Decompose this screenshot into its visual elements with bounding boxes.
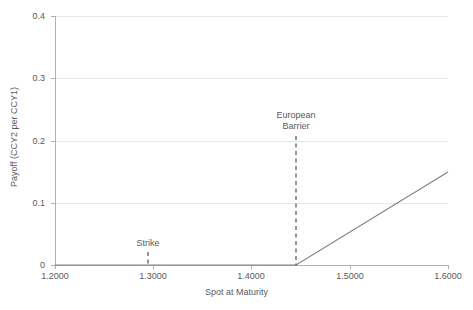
x-tick-label-1.5000: 1.5000 (320, 271, 380, 282)
y-axis-line (55, 16, 56, 266)
strike-annotation-line1: Strike (118, 238, 178, 249)
european-barrier-annotation-line2: Barrier (246, 121, 346, 132)
gridline-0.4 (55, 16, 448, 17)
x-axis-title: Spot at Maturity (0, 287, 473, 297)
x-tick-mark-1.6000 (448, 265, 449, 269)
y-tick-mark-0.3 (51, 78, 55, 79)
x-tick-label-1.6000: 1.6000 (418, 271, 473, 282)
x-tick-label-1.4000: 1.4000 (221, 271, 281, 282)
european-barrier-annotation-line1: European (246, 110, 346, 121)
y-axis-title: Payoff (CCY2 per CCY1) (9, 57, 19, 217)
gridline-0.2 (55, 141, 448, 142)
y-tick-label-0.2: 0.2 (32, 136, 45, 146)
strike-annotation: Strike (118, 238, 178, 249)
y-tick-label-0.1: 0.1 (32, 198, 45, 208)
x-tick-mark-1.4000 (251, 265, 252, 269)
x-tick-mark-1.2000 (55, 265, 56, 269)
x-tick-mark-1.5000 (350, 265, 351, 269)
gridline-0.1 (55, 203, 448, 204)
x-tick-label-1.2000: 1.2000 (25, 271, 85, 282)
x-axis-line (55, 265, 449, 266)
plot-area (55, 16, 448, 265)
payoff-chart: 0.4 0.3 0.2 0.1 0 1.2000 1.3000 1.4000 1… (0, 0, 473, 310)
y-tick-label-0.3: 0.3 (32, 73, 45, 83)
gridline-0.3 (55, 78, 448, 79)
y-tick-mark-0.4 (51, 16, 55, 17)
european-barrier-annotation: European Barrier (246, 110, 346, 132)
x-tick-mark-1.3000 (153, 265, 154, 269)
y-tick-label-0.4: 0.4 (32, 11, 45, 21)
y-tick-label-0: 0 (40, 260, 45, 270)
y-tick-mark-0.1 (51, 203, 55, 204)
y-tick-mark-0.2 (51, 141, 55, 142)
x-tick-label-1.3000: 1.3000 (123, 271, 183, 282)
